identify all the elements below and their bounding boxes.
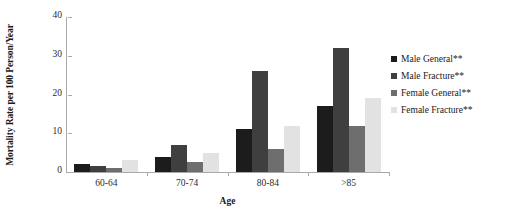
x-axis-tick-mark: [147, 172, 148, 176]
y-axis-title-text: Mortality Rate per 100 Person/Year: [5, 24, 15, 166]
bar-cluster: [74, 17, 138, 172]
legend-label: Female Fracture**: [401, 105, 473, 115]
bar: [365, 98, 381, 172]
bar: [90, 166, 106, 172]
y-axis-tick-mark: [68, 172, 72, 173]
bar-chart-figure: Mortality Rate per 100 Person/Year 01020…: [0, 0, 506, 223]
legend-item: Male General**: [391, 50, 506, 67]
x-axis-tick-mark: [389, 172, 390, 176]
bar-group: 60-64: [66, 17, 147, 172]
legend-item: Female General**: [391, 84, 506, 101]
y-axis-tick-label: 20: [53, 88, 63, 98]
x-axis-category-label: 60-64: [66, 178, 146, 188]
bar: [106, 168, 122, 172]
legend-swatch: [391, 56, 397, 62]
bar-cluster: [317, 17, 381, 172]
bar: [122, 160, 138, 172]
x-axis-category-label: >85: [309, 178, 389, 188]
bar: [236, 129, 252, 172]
legend-label: Female General**: [401, 88, 471, 98]
bar: [349, 126, 365, 173]
x-axis-tick-mark: [308, 172, 309, 176]
legend-label: Male General**: [401, 54, 462, 64]
bar: [284, 126, 300, 173]
bar: [155, 157, 171, 173]
x-axis-category-label: 80-84: [228, 178, 308, 188]
legend-swatch: [391, 73, 397, 79]
x-axis-category-label: 70-74: [147, 178, 227, 188]
legend-item: Female Fracture**: [391, 101, 506, 118]
bar-cluster: [155, 17, 219, 172]
y-axis-tick-label: 10: [53, 126, 63, 136]
legend-swatch: [391, 107, 397, 113]
bar: [317, 106, 333, 172]
legend-swatch: [391, 90, 397, 96]
bar-group: 70-74: [147, 17, 228, 172]
plot-area: 010203040 60-6470-7480-84>85: [66, 17, 389, 172]
bar: [268, 149, 284, 172]
bar-group: 80-84: [228, 17, 309, 172]
y-axis-title: Mortality Rate per 100 Person/Year: [0, 0, 20, 190]
bar: [187, 162, 203, 172]
x-axis-title: Age: [66, 196, 389, 206]
bar: [203, 153, 219, 172]
legend-label: Male Fracture**: [401, 71, 464, 81]
x-axis-tick-mark: [228, 172, 229, 176]
y-axis-tick-label: 40: [53, 10, 63, 20]
bar: [171, 145, 187, 172]
bar: [252, 71, 268, 172]
bar: [74, 164, 90, 172]
y-axis-tick-label: 0: [57, 165, 62, 175]
legend-item: Male Fracture**: [391, 67, 506, 84]
chart-legend: Male General**Male Fracture**Female Gene…: [391, 50, 506, 118]
bar: [333, 48, 349, 172]
bar-group: >85: [308, 17, 389, 172]
bar-cluster: [236, 17, 300, 172]
y-axis-tick-label: 30: [53, 49, 63, 59]
